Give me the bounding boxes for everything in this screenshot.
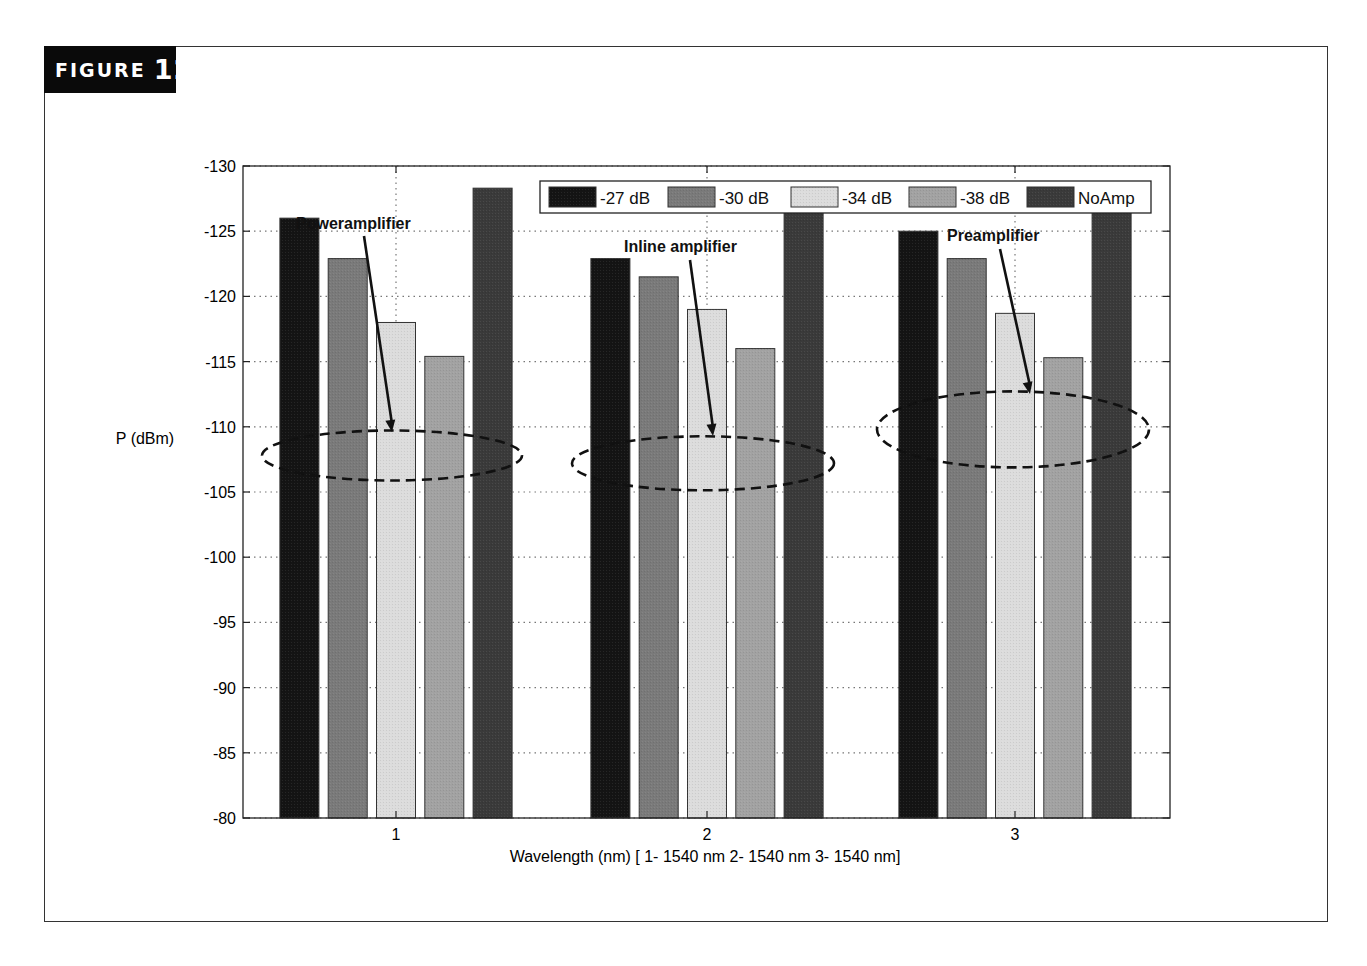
annotation-label: Poweramplifier (296, 215, 411, 232)
x-tick-label: 3 (1011, 826, 1020, 843)
y-tick-label: -80 (213, 810, 236, 827)
y-tick-label: -115 (205, 354, 236, 371)
legend-label: -27 dB (600, 189, 650, 208)
legend-label: -34 dB (842, 189, 892, 208)
x-tick-label: 2 (703, 826, 712, 843)
y-tick-label: -95 (213, 614, 236, 631)
legend-label: -38 dB (960, 189, 1010, 208)
legend-label: NoAmp (1078, 189, 1135, 208)
x-tick-label: 1 (392, 826, 401, 843)
y-tick-label: -110 (205, 419, 236, 436)
legend: -27 dB-30 dB-34 dB-38 dBNoAmp (540, 181, 1151, 213)
annotation-label: Preamplifier (947, 227, 1039, 244)
y-tick-label: -100 (204, 549, 236, 566)
annotation-label: Inline amplifier (624, 238, 737, 255)
y-axis-label: P (dBm) (116, 430, 174, 447)
y-tick-label: -125 (204, 223, 236, 240)
legend-label: -30 dB (719, 189, 769, 208)
bars (280, 188, 1131, 818)
y-tick-label: -85 (213, 745, 236, 762)
bar-chart: -130-125-120-115-110-105-100-95-90-85-80… (0, 0, 1367, 966)
x-axis-label: Wavelength (nm) [ 1- 1540 nm 2- 1540 nm … (510, 848, 901, 865)
y-tick-label: -90 (213, 680, 236, 697)
y-tick-label: -120 (204, 288, 236, 305)
y-tick-label: -130 (204, 158, 236, 175)
y-tick-label: -105 (204, 484, 236, 501)
